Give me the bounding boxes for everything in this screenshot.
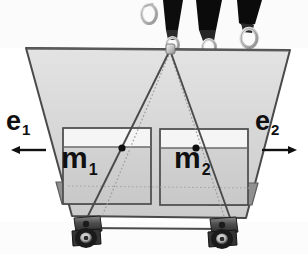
suspension-hook-body [166,44,175,54]
m1-subscript: 1 [89,161,98,178]
caster-right-axle [220,237,225,241]
basis-vector-label-e1: e1 [6,108,30,137]
m1-base: m [61,141,88,174]
bottom-rail-line [84,228,226,229]
m2-subscript: 2 [202,161,211,178]
caster-right [208,217,238,249]
e1-subscript: 1 [22,121,30,138]
caster-left-axle [84,236,89,240]
mass-label-m2: m2 [174,143,211,178]
caster-left [72,216,102,248]
caster-right-pivot [219,222,225,228]
com-dot-left [118,144,125,151]
mass-label-m1: m1 [61,143,98,178]
suspension-hook [166,44,175,54]
background-wash-bottom [0,222,308,254]
m2-base: m [174,141,201,174]
figure-canvas: e1 e2 m1 m2 [0,0,308,254]
e2-base: e [255,106,270,136]
basis-vector-label-e2: e2 [255,108,279,137]
e2-subscript: 2 [271,121,279,138]
caster-left-pivot [83,221,89,227]
e1-base: e [6,106,21,136]
bottom-rail-bar [84,228,226,229]
